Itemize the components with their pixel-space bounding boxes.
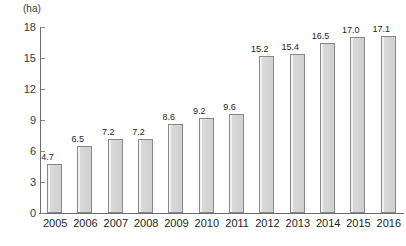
bar bbox=[199, 118, 214, 213]
bar bbox=[350, 37, 365, 213]
bar-value-label: 17.0 bbox=[337, 26, 364, 35]
bar bbox=[168, 124, 183, 213]
bar-series: 4.76.57.27.28.69.29.615.215.416.517.017.… bbox=[40, 27, 404, 213]
x-tick-label: 2010 bbox=[192, 216, 222, 230]
bar bbox=[138, 139, 153, 213]
x-tick-label: 2016 bbox=[374, 216, 404, 230]
bar-slot: 15.4 bbox=[283, 27, 313, 213]
x-tick-label: 2015 bbox=[343, 216, 373, 230]
y-tick-label: 6 bbox=[6, 146, 36, 157]
bar bbox=[259, 56, 274, 213]
y-tick-label: 0 bbox=[6, 208, 36, 219]
x-tick-label: 2011 bbox=[222, 216, 252, 230]
plot-area: 1815129630 4.76.57.27.28.69.29.615.215.4… bbox=[40, 27, 404, 213]
bar-value-label: 8.6 bbox=[155, 113, 182, 122]
x-tick-label: 2008 bbox=[131, 216, 161, 230]
y-tick-mark bbox=[41, 213, 45, 214]
x-tick-label: 2014 bbox=[313, 216, 343, 230]
bar-value-label: 16.5 bbox=[307, 32, 334, 41]
bar bbox=[320, 43, 335, 214]
bar bbox=[381, 36, 396, 213]
x-tick-label: 2007 bbox=[101, 216, 131, 230]
bar-slot: 9.2 bbox=[192, 27, 222, 213]
bar bbox=[47, 164, 62, 213]
y-tick-label: 15 bbox=[6, 53, 36, 64]
bar-value-label: 7.2 bbox=[95, 128, 122, 137]
x-tick-label: 2012 bbox=[252, 216, 282, 230]
bar-value-label: 9.2 bbox=[186, 107, 213, 116]
bar bbox=[229, 114, 244, 213]
y-tick-label: 3 bbox=[6, 177, 36, 188]
bar-slot: 4.7 bbox=[40, 27, 70, 213]
bar-slot: 6.5 bbox=[70, 27, 100, 213]
y-tick-label: 9 bbox=[6, 115, 36, 126]
x-tick-label: 2006 bbox=[70, 216, 100, 230]
bar-chart: (ha) 1815129630 4.76.57.27.28.69.29.615.… bbox=[0, 0, 406, 246]
bar-slot: 9.6 bbox=[222, 27, 252, 213]
bar-value-label: 6.5 bbox=[64, 135, 91, 144]
bar-value-label: 7.2 bbox=[125, 128, 152, 137]
y-tick-label: 12 bbox=[6, 84, 36, 95]
bar-slot: 17.1 bbox=[374, 27, 404, 213]
x-axis-categories: 2005200620072008200920102011201220132014… bbox=[40, 216, 404, 234]
bar-value-label: 15.2 bbox=[246, 45, 273, 54]
y-axis-unit-label: (ha) bbox=[23, 3, 41, 14]
bar-slot: 8.6 bbox=[161, 27, 191, 213]
y-tick-label: 18 bbox=[6, 22, 36, 33]
bar bbox=[108, 139, 123, 213]
x-tick-label: 2009 bbox=[161, 216, 191, 230]
bar bbox=[77, 146, 92, 213]
x-tick-label: 2013 bbox=[283, 216, 313, 230]
bar-slot: 15.2 bbox=[252, 27, 282, 213]
bar-value-label: 9.6 bbox=[216, 103, 243, 112]
bar-slot: 7.2 bbox=[101, 27, 131, 213]
bar-slot: 17.0 bbox=[343, 27, 373, 213]
bar-slot: 16.5 bbox=[313, 27, 343, 213]
x-axis-line bbox=[39, 213, 404, 214]
bar-value-label: 15.4 bbox=[277, 43, 304, 52]
x-tick-label: 2005 bbox=[40, 216, 70, 230]
bar-value-label: 17.1 bbox=[368, 25, 395, 34]
bar-value-label: 4.7 bbox=[34, 153, 61, 162]
bar bbox=[290, 54, 305, 213]
